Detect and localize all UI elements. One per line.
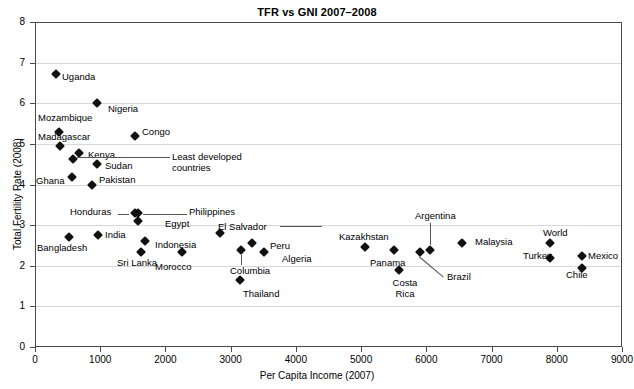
chart-figure: TFR vs GNI 2007–2008 0123456780100020003… — [0, 0, 634, 389]
point-label: Pakistan — [99, 175, 135, 185]
x-tick-mark — [231, 347, 232, 352]
point-label: Kazakhstan — [339, 232, 389, 242]
x-tick-mark — [35, 347, 36, 352]
x-tick-label: 0 — [10, 355, 60, 365]
point-label: Algeria — [282, 254, 312, 264]
point-label: Nigeria — [108, 104, 138, 114]
leader-line — [143, 214, 187, 215]
point-label: Brazil — [447, 272, 471, 282]
x-tick-label: 2000 — [140, 355, 190, 365]
y-tick-mark — [30, 103, 35, 104]
y-tick-label: 8 — [0, 17, 25, 27]
annotation-line-2: countries — [172, 163, 242, 174]
point-label: Turkey — [523, 251, 552, 261]
leader-line — [118, 214, 129, 215]
x-tick-mark — [426, 347, 427, 352]
chart-title: TFR vs GNI 2007–2008 — [0, 6, 634, 18]
y-tick-mark — [30, 144, 35, 145]
x-tick-label: 4000 — [271, 355, 321, 365]
point-label: India — [105, 230, 126, 240]
x-tick-label: 1000 — [75, 355, 125, 365]
gridline-y — [36, 225, 621, 226]
point-label: Malaysia — [475, 237, 513, 247]
gridline-y — [36, 144, 621, 145]
point-label: Sri Lanka — [117, 258, 157, 268]
y-tick-mark — [30, 225, 35, 226]
x-tick-label: 7000 — [467, 355, 517, 365]
x-tick-mark — [296, 347, 297, 352]
x-tick-mark — [100, 347, 101, 352]
chart-annotation: Least developedcountries — [172, 152, 242, 173]
point-label: Egypt — [165, 219, 189, 229]
point-label: Honduras — [70, 207, 111, 217]
x-tick-mark — [492, 347, 493, 352]
annotation-line-1: Least developed — [172, 152, 242, 163]
point-label: Thailand — [243, 289, 279, 299]
x-tick-mark — [361, 347, 362, 352]
x-tick-label: 5000 — [336, 355, 386, 365]
point-label: Indonesia — [155, 240, 196, 250]
y-tick-mark — [30, 22, 35, 23]
x-tick-mark — [165, 347, 166, 352]
x-tick-label: 8000 — [532, 355, 582, 365]
point-label: Morocco — [155, 262, 191, 272]
leader-line — [280, 226, 322, 227]
point-label: Chile — [566, 270, 588, 280]
point-label: Philippines — [189, 207, 235, 217]
gridline-y — [36, 306, 621, 307]
y-tick-mark — [30, 185, 35, 186]
x-tick-label: 3000 — [206, 355, 256, 365]
y-tick-mark — [30, 266, 35, 267]
gridline-y — [36, 63, 621, 64]
point-label: Kenya — [88, 150, 115, 160]
y-axis-title: Total Fertility Rate (2008) — [12, 138, 23, 250]
y-tick-label: 2 — [0, 261, 25, 271]
x-tick-mark — [557, 347, 558, 352]
point-label: Peru — [270, 241, 290, 251]
point-label: Bangladesh — [37, 243, 87, 253]
x-tick-label: 6000 — [401, 355, 451, 365]
y-tick-mark — [30, 63, 35, 64]
point-label: Sudan — [105, 161, 132, 171]
y-tick-label: 0 — [0, 342, 25, 352]
annotation-leader-line — [77, 157, 170, 158]
y-tick-label: 7 — [0, 58, 25, 68]
point-label: Argentina — [415, 211, 456, 221]
point-label: Ghana — [36, 176, 65, 186]
x-axis-title: Per Capita Income (2007) — [0, 370, 634, 381]
x-tick-label: 9000 — [597, 355, 634, 365]
point-label: Madagascar — [38, 132, 90, 142]
point-label: El Salvador — [218, 222, 267, 232]
point-label: Costa Rica — [383, 278, 427, 299]
leader-line — [241, 255, 242, 266]
x-tick-mark — [622, 347, 623, 352]
point-label: Mexico — [588, 251, 618, 261]
point-label: Congo — [142, 127, 170, 137]
y-tick-label: 6 — [0, 98, 25, 108]
point-label: World — [543, 228, 568, 238]
leader-line — [430, 223, 431, 245]
point-label: Mozambique — [38, 113, 92, 123]
y-tick-label: 1 — [0, 301, 25, 311]
point-label: Uganda — [62, 72, 95, 82]
point-label: Columbia — [230, 266, 270, 276]
y-tick-mark — [30, 306, 35, 307]
